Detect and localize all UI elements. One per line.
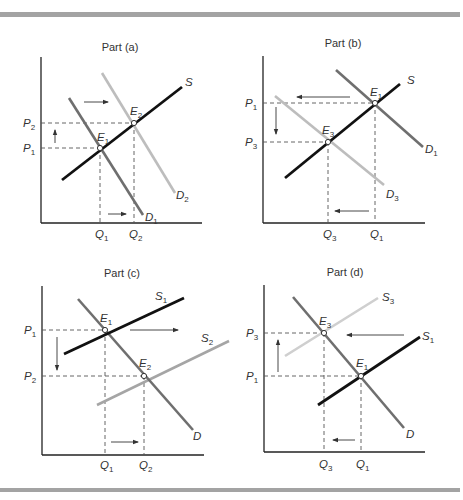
curve-label-d1: D1 [425,143,438,158]
panel-part-c: Part (c) S1 S2 D E1 E2 P1 P2 Q1 Q2 [24,267,229,474]
quantity-label-q1: Q1 [95,228,109,243]
panel-title: Part (b) [325,37,362,49]
price-label-p1: P1 [246,370,259,385]
curve-label-d3: D3 [386,188,399,203]
demand-curve-d [78,299,193,430]
equilibrium-point-e3 [321,330,326,335]
curve-label-s: S [407,74,415,86]
price-label-p1: P1 [245,97,258,112]
quantity-label-q3: Q3 [323,228,337,243]
axes [264,285,425,452]
supply-curve-s1 [318,337,420,405]
equilibrium-point-e1 [372,100,377,105]
equilibrium-point-e3 [325,139,330,144]
quantity-label-q3: Q3 [319,458,333,473]
panel-title: Part (c) [104,267,140,279]
panel-title: Part (a) [102,41,139,53]
quantity-label-q2: Q2 [129,228,143,243]
supply-curve-s [285,84,400,178]
equilibrium-point-e2 [141,373,146,378]
price-label-p2: P2 [23,117,36,132]
equilibrium-label-e3: E3 [319,315,332,330]
equilibrium-point-e2 [131,120,136,125]
panel-title: Part (d) [327,266,364,278]
demand-curve-d2 [102,73,175,193]
panel-part-a: Part (a) S D1 D2 E1 E2 P2 P1 Q1 Q2 [23,41,202,243]
quantity-label-q2: Q2 [139,459,153,474]
price-label-p3: P3 [245,136,258,151]
curve-label-d: D [406,428,414,440]
curve-label-d: D [193,430,201,442]
curve-label-s: S [185,76,193,88]
quantity-label-q1: Q1 [100,459,114,474]
panel-part-b: Part (b) S D1 D3 E1 E3 P1 P3 Q3 Q1 [245,37,438,243]
supply-curve-s1 [64,298,184,354]
price-label-p2: P2 [24,370,37,385]
axes [263,56,425,223]
curve-label-d1: D1 [145,211,158,226]
equilibrium-point-e1 [358,373,363,378]
price-label-p3: P3 [246,327,259,342]
curve-label-s1: S1 [422,330,435,345]
equilibrium-label-e1: E1 [370,86,383,101]
price-label-p1: P1 [24,324,37,339]
curve-label-s2: S2 [201,332,214,347]
price-label-p1: P1 [23,142,36,157]
dashed-guides [264,333,361,452]
equilibrium-label-e1: E1 [356,357,369,372]
equilibrium-point-e1 [102,327,107,332]
quantity-label-q1: Q1 [370,228,384,243]
panel-part-d: Part (d) S3 S1 D E3 E1 P3 P1 Q3 Q1 [246,266,435,473]
equilibrium-label-e2: E2 [130,105,143,120]
quantity-label-q1: Q1 [356,458,370,473]
supply-demand-diagram: Part (a) S D1 D2 E1 E2 P2 P1 Q1 Q2 [0,0,463,500]
axes [42,286,204,455]
curve-label-s1: S1 [155,290,168,305]
curve-label-d2: D2 [176,189,189,204]
supply-curve-s3 [285,298,378,356]
equilibrium-point-e1 [97,145,102,150]
curve-label-s3: S3 [382,291,395,306]
supply-curve-s [62,87,182,180]
